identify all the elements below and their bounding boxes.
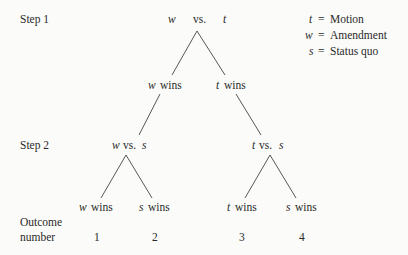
edge-w-vs-s-to-s-wins (126, 155, 152, 198)
node-b: s (279, 139, 283, 152)
node-text: wins (224, 79, 246, 92)
node-b: s (142, 139, 146, 152)
node-a: w (112, 139, 120, 152)
step-1-label: Step 1 (20, 13, 49, 26)
node-vs: vs. (259, 139, 272, 152)
step-2-label: Step 2 (20, 139, 49, 152)
node-vs: vs. (123, 139, 136, 152)
outcome-number: 3 (239, 231, 245, 244)
edge-root-to-w-wins (172, 31, 197, 75)
edge-w-vs-s-to-w-wins (101, 155, 126, 198)
root-right-var: t (223, 13, 226, 26)
node-var: t (216, 79, 219, 92)
leaf-text: wins (91, 201, 113, 214)
root-left-var: w (168, 13, 176, 26)
legend-eq: = (318, 13, 325, 26)
leaf-var: s (139, 201, 143, 214)
edge-w-wins-to-w-vs-s (139, 94, 160, 135)
legend-meaning: Amendment (330, 29, 387, 42)
outcome-label-line2: number (20, 231, 55, 244)
node-a: t (252, 139, 255, 152)
legend-eq: = (318, 45, 325, 58)
edge-root-to-t-wins (197, 31, 225, 75)
legend-var: s (309, 45, 313, 58)
legend-meaning: Status quo (330, 45, 378, 58)
legend-var: w (305, 29, 313, 42)
node-var: w (148, 79, 156, 92)
edge-t-vs-s-to-t-wins (245, 155, 270, 198)
legend-var: t (309, 13, 312, 26)
leaf-var: s (286, 201, 290, 214)
outcome-label-line1: Outcome (20, 216, 62, 229)
leaf-text: wins (235, 201, 257, 214)
leaf-text: wins (148, 201, 170, 214)
edge-t-wins-to-t-vs-s (236, 94, 261, 135)
legend-meaning: Motion (330, 13, 364, 26)
leaf-var: w (79, 201, 87, 214)
outcome-number: 1 (94, 231, 100, 244)
root-vs: vs. (193, 13, 206, 26)
leaf-var: t (227, 201, 230, 214)
leaf-text: wins (295, 201, 317, 214)
node-text: wins (160, 79, 182, 92)
outcome-number: 4 (299, 231, 305, 244)
edge-t-vs-s-to-s-wins (270, 155, 296, 198)
outcome-number: 2 (152, 231, 158, 244)
legend-eq: = (318, 29, 325, 42)
